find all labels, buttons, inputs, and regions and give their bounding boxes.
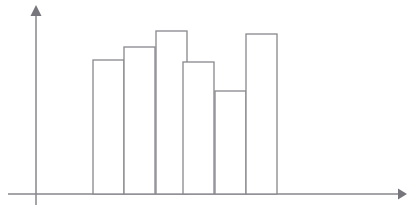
histogram-bar xyxy=(124,47,155,194)
histogram-bar xyxy=(93,60,124,194)
histogram-bar xyxy=(246,34,277,194)
histogram-figure xyxy=(0,0,409,210)
histogram-canvas xyxy=(0,0,409,210)
histogram-bar xyxy=(183,62,214,194)
histogram-bar xyxy=(215,91,246,194)
